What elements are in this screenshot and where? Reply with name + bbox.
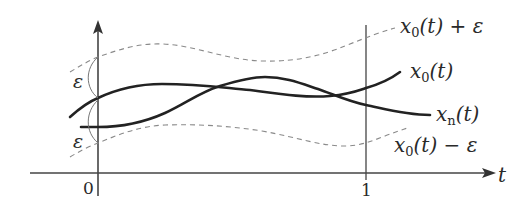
x0-label: x0(t): [410, 59, 453, 85]
upper-epsilon-arc: [88, 57, 98, 98]
epsilon-tube-diagram: ε ε 0 1 t x0(t) + ε x0(t) xn(t) x0(t) − …: [0, 0, 525, 214]
tick-0-label: 0: [83, 178, 94, 198]
lower-bound-label: x0(t) − ε: [394, 133, 477, 159]
xn-label: xn(t): [436, 102, 479, 128]
x0-curve: [70, 72, 400, 117]
t-axis-label: t: [498, 163, 507, 187]
upper-bound-label: x0(t) + ε: [400, 14, 483, 40]
upper-bound-curve: [70, 28, 395, 72]
upper-epsilon-label: ε: [73, 70, 83, 92]
lower-epsilon-label: ε: [73, 130, 83, 152]
tick-1-label: 1: [361, 180, 372, 200]
axes: [30, 20, 496, 196]
lower-bound-curve: [70, 125, 410, 157]
lower-epsilon-arc: [88, 100, 98, 143]
